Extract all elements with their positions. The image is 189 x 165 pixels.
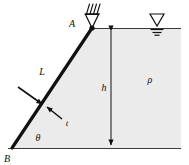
fixed-support-hatching-icon bbox=[85, 4, 100, 14]
figure-container: A B L t θ h ρ bbox=[0, 0, 189, 165]
fluid-region-fill bbox=[12, 28, 181, 148]
label-angle-theta: θ bbox=[36, 132, 41, 143]
hinge-pin-dot-icon bbox=[89, 25, 94, 30]
label-length-l: L bbox=[38, 66, 45, 77]
label-point-a: A bbox=[68, 18, 76, 29]
label-point-b: B bbox=[4, 153, 10, 164]
label-density-rho: ρ bbox=[147, 74, 153, 85]
force-arrow-icon bbox=[18, 87, 42, 104]
label-height-h: h bbox=[102, 82, 107, 93]
diagram-canvas: A B L t θ h ρ bbox=[0, 0, 189, 165]
